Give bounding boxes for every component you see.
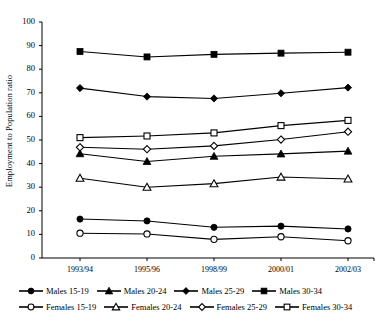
legend-item-label: Females 20-24 — [129, 302, 181, 312]
open-circle-marker — [345, 238, 351, 244]
open-square-marker — [211, 130, 217, 136]
legend-item-label: Males 25-29 — [199, 286, 244, 296]
open-circle-marker — [144, 231, 150, 237]
open-diamond-marker — [277, 136, 284, 143]
y-tick-label: 70 — [13, 88, 35, 97]
filled-circle-marker — [144, 218, 150, 224]
filled-diamond-marker — [344, 84, 351, 91]
y-tick-label: 60 — [13, 111, 35, 120]
legend-item[interactable]: Females 30-34 — [274, 301, 352, 313]
legend-item-label: Males 30-34 — [277, 286, 322, 296]
open-circle-marker — [28, 304, 34, 310]
legend-item-label: Males 15-19 — [44, 286, 89, 296]
y-tick-label: 90 — [13, 41, 35, 50]
open-circle-marker — [77, 230, 83, 236]
legend-item[interactable]: Males 15-19 — [18, 285, 89, 297]
legend-symbol — [18, 301, 44, 313]
series-females-20-24 — [76, 173, 352, 190]
legend-item-label: Females 30-34 — [300, 302, 352, 312]
open-diamond-marker — [76, 144, 83, 151]
y-tick-label: 50 — [13, 135, 35, 144]
filled-circle-marker — [278, 223, 284, 229]
open-square-marker — [77, 135, 83, 141]
filled-diamond-marker — [277, 90, 284, 97]
open-diamond-marker — [143, 146, 150, 153]
legend-item[interactable]: Males 20-24 — [96, 285, 167, 297]
legend-symbol — [103, 301, 129, 313]
filled-circle-marker — [28, 288, 34, 294]
open-triangle-marker — [76, 174, 84, 181]
filled-diamond-marker — [76, 84, 83, 91]
legend-symbol — [18, 285, 44, 297]
y-tick-label: 0 — [13, 253, 35, 262]
series-males-15-19 — [77, 216, 351, 232]
y-tick-label: 100 — [13, 17, 35, 26]
legend-item[interactable]: Females 15-19 — [18, 301, 96, 313]
legend-item-label: Females 25-29 — [215, 302, 267, 312]
open-square-marker — [144, 133, 150, 139]
filled-square-marker — [345, 49, 351, 55]
series-females-15-19 — [77, 230, 351, 244]
legend-item-label: Males 20-24 — [122, 286, 167, 296]
legend-item[interactable]: Females 20-24 — [103, 301, 181, 313]
y-tick-label: 40 — [13, 159, 35, 168]
y-tick-label: 10 — [13, 229, 35, 238]
filled-diamond-marker — [183, 288, 190, 295]
filled-diamond-marker — [143, 93, 150, 100]
y-tick-label: 20 — [13, 206, 35, 215]
legend-row-females: Females 15-19Females 20-24Females 25-29F… — [18, 299, 376, 315]
x-tick-label: 1995/96 — [117, 265, 177, 274]
filled-circle-marker — [345, 226, 351, 232]
series-males-25-29 — [76, 84, 351, 102]
y-tick-label: 80 — [13, 64, 35, 73]
legend-symbol — [189, 301, 215, 313]
series-males-30-34 — [77, 49, 351, 60]
open-diamond-marker — [210, 142, 217, 149]
filled-circle-marker — [77, 216, 83, 222]
filled-square-marker — [144, 54, 150, 60]
filled-square-marker — [261, 288, 267, 294]
x-tick-label: 1993/94 — [50, 265, 110, 274]
open-square-marker — [345, 117, 351, 123]
legend-symbol — [274, 301, 300, 313]
open-diamond-marker — [198, 304, 205, 311]
legend-symbol — [96, 285, 122, 297]
legend-symbol — [251, 285, 277, 297]
line-chart: Employment to Population ratio 010203040… — [0, 0, 383, 321]
legend-symbol — [173, 285, 199, 297]
open-circle-marker — [211, 236, 217, 242]
open-diamond-marker — [344, 128, 351, 135]
x-tick-label: 2000/01 — [251, 265, 311, 274]
open-square-marker — [278, 123, 284, 129]
chart-legend: Males 15-19Males 20-24Males 25-29Males 3… — [18, 283, 376, 315]
series-females-30-34 — [77, 117, 351, 140]
filled-circle-marker — [211, 224, 217, 230]
filled-square-marker — [211, 51, 217, 57]
open-square-marker — [284, 304, 290, 310]
legend-item[interactable]: Males 25-29 — [173, 285, 244, 297]
y-tick-label: 30 — [13, 182, 35, 191]
legend-item[interactable]: Females 25-29 — [189, 301, 267, 313]
filled-diamond-marker — [210, 95, 217, 102]
open-circle-marker — [278, 234, 284, 240]
filled-square-marker — [278, 50, 284, 56]
legend-item[interactable]: Males 30-34 — [251, 285, 322, 297]
filled-square-marker — [77, 49, 83, 55]
x-tick-label: 1998/99 — [184, 265, 244, 274]
legend-row-males: Males 15-19Males 20-24Males 25-29Males 3… — [18, 283, 376, 299]
legend-item-label: Females 15-19 — [44, 302, 96, 312]
x-tick-label: 2002/03 — [318, 265, 378, 274]
